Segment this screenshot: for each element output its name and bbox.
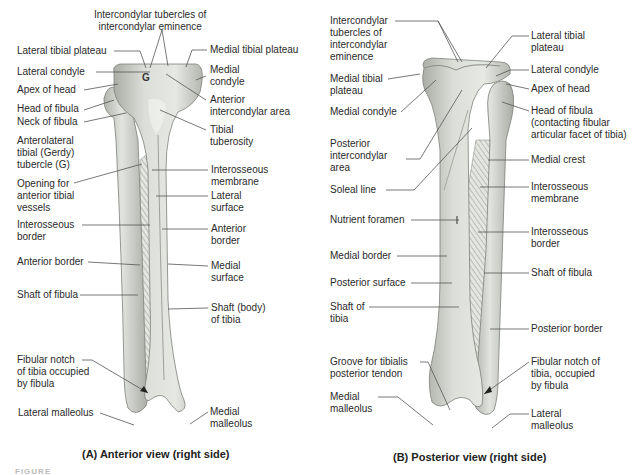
label-a-neck-of-fibula: Neck of fibula [17, 116, 78, 128]
label-b-intercondylar-tubercles: Intercondylar tubercles of intercondylar… [330, 15, 388, 63]
label-a-interosseous-border: Interosseous border [17, 219, 74, 243]
caption-anterior-view: (A) Anterior view (right side) [82, 448, 230, 460]
label-a-anterior-border-fibula: Anterior border [17, 256, 84, 268]
label-a-medial-surface: Medial surface [211, 260, 244, 284]
posterior-view [423, 58, 514, 415]
label-b-medial-border: Medial border [330, 250, 391, 262]
label-a-lateral-condyle: Lateral condyle [17, 66, 85, 78]
label-b-interosseous-membrane: Interosseous membrane [531, 181, 588, 205]
figure-label: FIGURE [15, 467, 51, 475]
caption-posterior-view: (B) Posterior view (right side) [393, 451, 546, 463]
label-b-medial-crest: Medial crest [531, 154, 585, 166]
label-b-interosseous-border: Interosseous border [531, 226, 588, 250]
label-a-anterior-border-tibia: Anterior border [211, 223, 246, 247]
label-b-soleal-line: Soleal line [330, 184, 376, 196]
label-b-lateral-condyle: Lateral condyle [531, 64, 599, 76]
label-a-shaft-of-tibia: Shaft (body) of tibia [211, 302, 265, 326]
label-b-medial-malleolus: Medial malleolus [330, 391, 372, 415]
label-a-intercondylar-tubercles: Intercondylar tubercles of intercondylar… [94, 9, 206, 33]
label-a-shaft-of-fibula: Shaft of fibula [17, 289, 78, 301]
label-a-gerdy-tubercle: Anterolateral tibial (Gerdy) tubercle (G… [17, 135, 74, 171]
label-a-opening-anterior-tibial-vessels: Opening for anterior tibial vessels [17, 178, 74, 214]
label-b-medial-condyle: Medial condyle [330, 106, 397, 118]
label-b-fibular-notch: Fibular notch of tibia, occupied by fibu… [531, 356, 600, 392]
label-a-apex-of-head: Apex of head [17, 84, 76, 96]
label-a-head-of-fibula: Head of fibula [17, 103, 79, 115]
label-b-posterior-intercondylar-area: Posterior intercondylar area [330, 138, 387, 174]
label-a-lateral-surface: Lateral surface [211, 190, 244, 214]
label-a-lateral-tibial-plateau: Lateral tibial plateau [17, 45, 107, 57]
label-b-shaft-of-fibula: Shaft of fibula [531, 267, 592, 279]
label-b-posterior-border: Posterior border [531, 323, 603, 335]
gerdy-marker: G [142, 72, 150, 83]
label-b-posterior-surface: Posterior surface [330, 277, 406, 289]
label-a-medial-tibial-plateau: Medial tibial plateau [210, 44, 298, 56]
label-b-head-of-fibula: Head of fibula (contacting fibular artic… [531, 105, 627, 141]
label-b-lateral-malleolus: Lateral malleolus [531, 408, 573, 432]
label-a-anterior-intercondylar-area: Anterior intercondylar area [210, 94, 290, 118]
label-b-medial-tibial-plateau: Medial tibial plateau [330, 73, 383, 97]
label-a-medial-condyle: Medial condyle [210, 64, 244, 88]
label-b-nutrient-foramen: Nutrient foramen [330, 214, 404, 226]
label-a-fibular-notch: Fibular notch of tibia occupied by fibul… [17, 354, 89, 390]
label-a-lateral-malleolus: Lateral malleolus [18, 407, 94, 419]
label-b-apex-of-head: Apex of head [531, 83, 590, 95]
label-b-lateral-tibial-plateau: Lateral tibial plateau [531, 30, 585, 54]
label-b-groove-tibialis-posterior: Groove for tibialis posterior tendon [330, 356, 408, 380]
label-a-interosseous-membrane: Interosseous membrane [211, 164, 268, 188]
label-a-tibial-tuberosity: Tibial tuberosity [210, 124, 253, 148]
label-b-shaft-of-tibia: Shaft of tibia [330, 301, 364, 325]
label-a-medial-malleolus: Medial malleolus [210, 406, 252, 430]
anterior-view [104, 64, 202, 413]
